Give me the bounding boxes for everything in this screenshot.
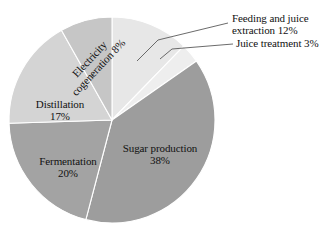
- pie-chart-page: Feeding and juice extraction 12% Juice t…: [0, 0, 328, 238]
- label-fermentation-line2: 20%: [23, 167, 113, 179]
- label-feeding-and-juice-extraction: Feeding and juice extraction 12%: [232, 12, 328, 37]
- label-distillation: Distillation 17%: [20, 98, 100, 123]
- label-sugar-production: Sugar production 38%: [110, 142, 210, 167]
- label-distillation-line2: 17%: [20, 110, 100, 122]
- label-feeding-and-juice-extraction-line2: extraction 12%: [232, 24, 328, 36]
- label-feeding-and-juice-extraction-line1: Feeding and juice: [232, 12, 328, 24]
- label-juice-treatment-line1: Juice treatment 3%: [236, 37, 328, 49]
- label-juice-treatment: Juice treatment 3%: [236, 37, 328, 49]
- label-fermentation-line1: Fermentation: [23, 155, 113, 167]
- label-sugar-production-line2: 38%: [110, 154, 210, 166]
- label-sugar-production-line1: Sugar production: [110, 142, 210, 154]
- label-fermentation: Fermentation 20%: [23, 155, 113, 180]
